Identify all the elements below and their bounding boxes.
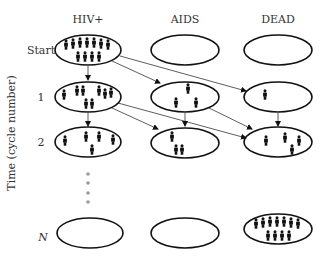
- person-icons-1-hiv: [62, 85, 113, 108]
- column-header-hiv: HIV+: [72, 13, 103, 26]
- markov-state-diagram: HIV+ AIDS DEAD Start 1 2 N Time (cycle n…: [0, 0, 327, 262]
- person-icons-start-hiv: [64, 37, 110, 61]
- person-icons-2-dead: [264, 132, 301, 154]
- row-label-n: N: [37, 231, 48, 244]
- column-header-aids: AIDS: [170, 13, 200, 26]
- state-1-aids: [151, 82, 219, 112]
- row-label-1: 1: [38, 91, 45, 104]
- row-label-2: 2: [38, 136, 45, 149]
- person-icons-2-aids: [170, 131, 184, 154]
- state-2-dead: [244, 127, 312, 157]
- state-2-aids: [151, 128, 219, 158]
- y-axis-label: Time (cycle number): [5, 75, 18, 190]
- row-label-start: Start: [27, 44, 56, 57]
- ellipsis-dots: [86, 172, 90, 204]
- state-1-dead: [244, 82, 312, 112]
- state-start-dead: [244, 35, 312, 65]
- person-icons-n-dead: [254, 216, 300, 240]
- person-icons-1-dead: [263, 89, 267, 99]
- state-start-aids: [151, 35, 219, 65]
- state-n-aids: [151, 218, 219, 248]
- column-header-dead: DEAD: [261, 13, 295, 26]
- transition-arrows: [88, 56, 278, 138]
- person-icons-1-aids: [174, 83, 198, 107]
- person-icons-2-hiv: [63, 131, 115, 154]
- state-n-hiv: [57, 218, 123, 248]
